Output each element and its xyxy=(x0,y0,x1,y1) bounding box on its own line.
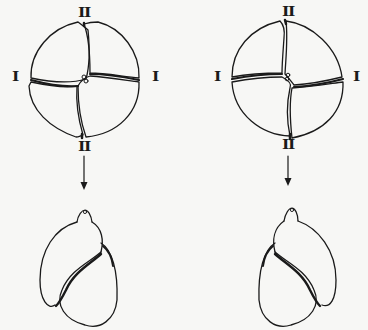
left-shell xyxy=(40,210,117,326)
left-label-right: I xyxy=(152,70,158,83)
left-embryo xyxy=(29,22,139,138)
right-label-bottom: II xyxy=(282,138,294,151)
right-arrow xyxy=(285,156,292,186)
left-label-bottom: II xyxy=(78,140,90,153)
right-label-right: I xyxy=(353,70,359,83)
cleavage-diagram: II II I I II II I I xyxy=(0,0,368,330)
left-label-top: II xyxy=(78,6,90,19)
left-arrow xyxy=(81,156,88,190)
right-embryo xyxy=(232,20,343,139)
right-label-left: I xyxy=(214,70,220,83)
left-label-left: I xyxy=(12,70,18,83)
right-shell xyxy=(259,208,336,326)
right-label-top: II xyxy=(282,5,294,18)
diagram-drawing xyxy=(0,0,368,330)
